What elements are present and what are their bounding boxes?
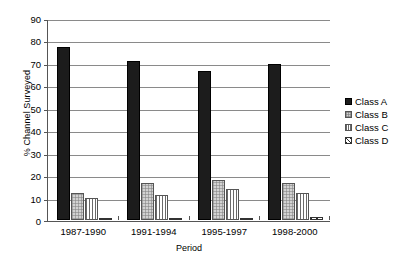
x-tick-mark	[329, 216, 330, 220]
y-tick-label: 90	[0, 15, 43, 25]
bar-group	[260, 20, 330, 220]
y-tick-mark	[44, 42, 48, 43]
bar	[296, 193, 309, 220]
y-tick-mark	[44, 87, 48, 88]
legend-item[interactable]: Class A	[345, 95, 388, 108]
x-tick-label: 1987-1990	[48, 226, 119, 237]
bar-group	[49, 20, 119, 220]
legend-item[interactable]: Class D	[345, 134, 388, 147]
x-tick-label: 1991-1994	[119, 226, 190, 237]
y-tick-mark	[44, 132, 48, 133]
bar-group	[190, 20, 260, 220]
legend-label: Class B	[355, 109, 388, 120]
y-tick-label: 40	[0, 127, 43, 137]
bar-chart: % Channel Surveyed 0 10 20 30 40 50 60 7…	[0, 0, 408, 275]
bar	[212, 180, 225, 220]
legend-label: Class D	[355, 135, 388, 146]
chart-legend: Class AClass BClass CClass D	[345, 95, 388, 147]
bar	[169, 218, 182, 220]
bar	[141, 183, 154, 220]
y-tick-label: 80	[0, 37, 43, 47]
bar	[99, 218, 112, 220]
bar	[198, 71, 211, 220]
legend-item[interactable]: Class B	[345, 108, 388, 121]
y-tick-mark	[44, 200, 48, 201]
bar	[127, 61, 140, 220]
y-tick-label: 70	[0, 60, 43, 70]
y-tick-mark	[44, 65, 48, 66]
legend-swatch-icon	[345, 111, 352, 118]
y-tick-mark	[44, 221, 48, 222]
bar	[71, 193, 84, 220]
y-axis-tick-labels: 0 10 20 30 40 50 60 70 80 90	[0, 20, 43, 222]
y-tick-label: 20	[0, 172, 43, 182]
legend-label: Class C	[355, 122, 388, 133]
y-tick-mark	[44, 177, 48, 178]
y-tick-label: 50	[0, 105, 43, 115]
legend-swatch-icon	[345, 124, 352, 131]
legend-label: Class A	[355, 96, 387, 107]
x-axis-title: Period	[48, 243, 330, 253]
y-tick-mark	[44, 20, 48, 21]
bar	[85, 198, 98, 220]
bar-group	[119, 20, 189, 220]
bar-groups	[49, 20, 330, 220]
bar	[57, 47, 70, 220]
bar	[226, 189, 239, 220]
y-tick-label: 10	[0, 195, 43, 205]
y-tick-mark	[44, 110, 48, 111]
y-tick-mark	[44, 155, 48, 156]
y-tick-label: 30	[0, 150, 43, 160]
bar	[240, 218, 253, 220]
bar	[155, 195, 168, 220]
x-tick-label: 1998-2000	[260, 226, 331, 237]
y-tick-label: 0	[0, 217, 43, 227]
x-tick-label: 1995-1997	[189, 226, 260, 237]
plot-area	[47, 20, 330, 222]
legend-swatch-icon	[345, 98, 352, 105]
bar	[268, 64, 281, 220]
legend-item[interactable]: Class C	[345, 121, 388, 134]
bar	[282, 183, 295, 220]
x-axis-tick-labels: 1987-19901991-19941995-19971998-2000	[48, 226, 330, 237]
y-tick-label: 60	[0, 82, 43, 92]
legend-swatch-icon	[345, 137, 352, 144]
bar	[310, 217, 323, 220]
